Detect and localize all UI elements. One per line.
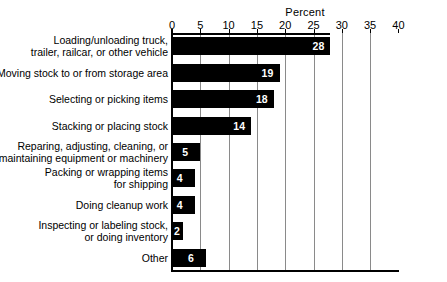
- bar-value-label: 2: [174, 226, 180, 237]
- x-axis-tick-labels: 0510152025303540: [0, 19, 447, 33]
- category-label-line: Packing or wrapping items: [45, 166, 168, 178]
- bar-row: 6: [172, 249, 399, 267]
- bar: [172, 196, 195, 214]
- category-labels: Loading/unloading truck,trailer, railcar…: [0, 33, 168, 271]
- bar-series: 2819181454426: [172, 33, 399, 271]
- category-label: Moving stock to or from storage area: [0, 60, 168, 86]
- x-tick-label-25: 25: [307, 19, 319, 32]
- category-label: Stacking or placing stock: [0, 113, 168, 139]
- category-label-line: Inspecting or labeling stock,: [38, 219, 168, 231]
- plot-area: 2819181454426: [172, 33, 399, 271]
- category-label: Other: [0, 245, 168, 271]
- category-label-line: trailer, railcar, or other vehicle: [31, 46, 168, 58]
- bar-value-label: 4: [177, 199, 183, 210]
- category-label-line: Reparing, adjusting, cleaning, or: [17, 140, 168, 152]
- bar-value-label: 5: [182, 147, 188, 158]
- category-label: Reparing, adjusting, cleaning, ormaintai…: [0, 139, 168, 165]
- bar-row: 4: [172, 169, 399, 187]
- bar-value-label: 6: [188, 252, 194, 263]
- axis-title-percent: Percent: [172, 6, 438, 18]
- x-tick-label-35: 35: [364, 19, 376, 32]
- bar-chart: Percent 0510152025303540 Loading/unloadi…: [0, 0, 447, 282]
- category-label-line: Other: [142, 252, 168, 264]
- bar-value-label: 4: [177, 173, 183, 184]
- x-tick-label-30: 30: [336, 19, 348, 32]
- category-label: Inspecting or labeling stock,or doing in…: [0, 218, 168, 244]
- x-tick-label-5: 5: [197, 19, 203, 32]
- category-label-line: Doing cleanup work: [76, 199, 168, 211]
- bar: [172, 37, 330, 55]
- bar-row: 28: [172, 37, 399, 55]
- bar-row: 18: [172, 90, 399, 108]
- bar-row: 5: [172, 143, 399, 161]
- category-label-line: Stacking or placing stock: [52, 120, 168, 132]
- bar-value-label: 14: [233, 120, 245, 131]
- category-label-line: maintaining equipment or machinery: [0, 152, 168, 164]
- bar-value-label: 19: [262, 67, 274, 78]
- bar-row: 14: [172, 117, 399, 135]
- category-label: Packing or wrapping itemsfor shipping: [0, 165, 168, 191]
- category-label-line: for shipping: [114, 178, 168, 190]
- category-label-line: Loading/unloading truck,: [54, 34, 168, 46]
- bar: [172, 169, 195, 187]
- bar-row: 2: [172, 222, 399, 240]
- bar-row: 4: [172, 196, 399, 214]
- bar-value-label: 28: [312, 41, 324, 52]
- category-label: Doing cleanup work: [0, 192, 168, 218]
- x-tick-label-20: 20: [279, 19, 291, 32]
- bar-value-label: 18: [256, 94, 268, 105]
- category-label-line: Selecting or picking items: [49, 93, 168, 105]
- bar-row: 19: [172, 64, 399, 82]
- x-tick-label-10: 10: [222, 19, 234, 32]
- category-label: Loading/unloading truck,trailer, railcar…: [0, 33, 168, 59]
- category-label-line: Moving stock to or from storage area: [0, 67, 168, 79]
- x-tick-label-40: 40: [392, 19, 404, 32]
- x-tick-label-15: 15: [251, 19, 263, 32]
- category-label: Selecting or picking items: [0, 86, 168, 112]
- category-label-line: or doing inventory: [85, 231, 168, 243]
